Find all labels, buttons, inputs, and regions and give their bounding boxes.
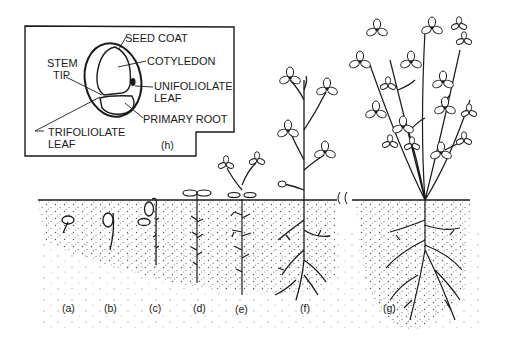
stage-label-b: (b) (104, 302, 117, 314)
stage-label-a: (a) (62, 302, 75, 314)
inset-label-h: (h) (161, 139, 174, 151)
stage-label-d: (d) (193, 302, 206, 314)
stage-label-c: (c) (149, 302, 161, 314)
stage-label-g: (g) (383, 302, 396, 314)
label-seed-coat: SEED COAT (125, 32, 188, 44)
label-unifoliolate-line2: LEAF (154, 92, 182, 104)
label-primary-root: PRIMARY ROOT (143, 113, 228, 125)
label-trifoliolate-line1: TRIFOLIOLATE (48, 126, 125, 138)
label-stem-tip-line1: STEM (47, 57, 78, 69)
label-trifoliolate-line2: LEAF (48, 138, 76, 150)
seedling-diagram (0, 0, 505, 353)
label-unifoliolate-line1: UNIFOLIOLATE (154, 80, 233, 92)
label-cotyledon: COTYLEDON (147, 55, 215, 67)
label-stem-tip-line2: TIP (53, 69, 70, 81)
stage-label-f: (f) (300, 302, 310, 314)
stage-label-e: (e) (235, 303, 248, 315)
